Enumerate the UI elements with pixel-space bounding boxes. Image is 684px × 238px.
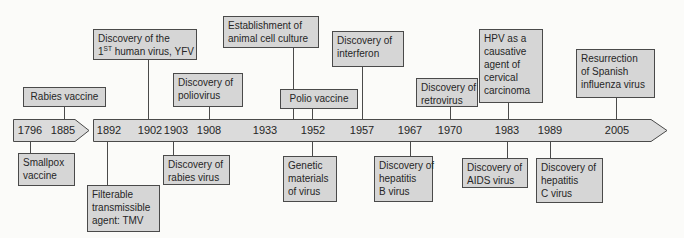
connector-smallpox-vaccine [30, 142, 31, 153]
year-label: 1967 [398, 124, 422, 137]
superscript-st: ST [104, 45, 112, 52]
year-label: 1983 [495, 124, 519, 137]
connector-polio-vaccine [312, 109, 313, 120]
connector-hepatitis-b [410, 142, 411, 156]
year-label: 1902 [138, 124, 162, 137]
year-label: 1957 [350, 124, 374, 137]
year-label: 1952 [301, 124, 325, 137]
connector-rabies-vaccine [64, 107, 65, 120]
event-box-hpv-cervical-carcinoma: HPV as a causative agent of cervical car… [479, 29, 543, 103]
event-box-hepatitis-b: Discovery of hepatitis B virus [374, 156, 433, 202]
year-label: 1796 [18, 124, 42, 137]
connector-spanish-influenza [616, 98, 617, 120]
event-box-tmv: Filterable transmissible agent: TMV [87, 185, 160, 232]
event-box-retrovirus: Discovery of retrovirus [416, 78, 478, 107]
virology-history-timeline: 1796 1885 1892 1902 1903 1908 1933 1952 … [0, 0, 684, 238]
connector-hpv [508, 103, 509, 120]
first-human-virus-line2: 1ST human virus, YFV [98, 45, 192, 58]
year-label: 1885 [51, 124, 75, 137]
connector-rabies-virus [173, 142, 174, 155]
year-label: 2005 [605, 124, 629, 137]
year-label: 1933 [253, 124, 277, 137]
event-box-poliovirus: Discovery of poliovirus [173, 73, 243, 107]
event-box-aids-virus: Discovery of AIDS virus [462, 158, 528, 188]
event-box-animal-cell-culture: Establishment of animal cell culture [223, 16, 319, 48]
connector-poliovirus [209, 107, 210, 120]
connector-interferon [362, 67, 363, 120]
year-label: 1908 [197, 124, 221, 137]
event-box-spanish-influenza: Resurrection of Spanish influenza virus [576, 49, 655, 98]
event-box-hepatitis-c: Discovery of hepatitis C virus [536, 158, 603, 203]
event-box-genetic-materials: Genetic materials of virus [283, 156, 337, 202]
event-box-polio-vaccine: Polio vaccine [280, 89, 358, 109]
connector-cell-culture [293, 48, 294, 120]
connector-retrovirus [450, 107, 451, 120]
connector-hepatitis-c [550, 142, 551, 158]
first-human-virus-line1: Discovery of the [98, 32, 192, 45]
event-box-rabies-virus: Discovery of rabies virus [163, 155, 230, 185]
year-label: 1903 [164, 124, 188, 137]
event-box-interferon: Discovery of interferon [332, 31, 404, 67]
event-box-smallpox-vaccine: Smallpox vaccine [18, 153, 75, 186]
connector-aids-virus [507, 142, 508, 158]
year-label: 1970 [438, 124, 462, 137]
year-label: 1892 [97, 124, 121, 137]
connector-genetic-materials [312, 142, 313, 156]
year-label: 1989 [538, 124, 562, 137]
event-box-first-human-virus: Discovery of the1ST human virus, YFV [93, 29, 197, 60]
event-box-rabies-vaccine: Rabies vaccine [23, 87, 106, 107]
connector-tmv [107, 142, 108, 185]
connector-first-human-virus [148, 60, 149, 120]
